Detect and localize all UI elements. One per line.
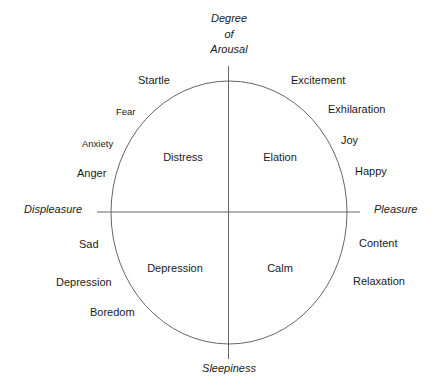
emotion-label-anger: Anger bbox=[77, 167, 106, 180]
axis-label-displeasure: Displeasure bbox=[24, 203, 82, 216]
circumplex-ellipse bbox=[111, 81, 347, 344]
axis-label-pleasure: Pleasure bbox=[374, 203, 417, 216]
quadrant-label-elation: Elation bbox=[263, 151, 297, 164]
axis-label-sleepiness: Sleepiness bbox=[202, 362, 256, 375]
emotion-label-content: Content bbox=[359, 237, 398, 250]
emotion-label-anxiety: Anxiety bbox=[82, 137, 113, 150]
emotion-label-sad: Sad bbox=[79, 238, 99, 251]
emotion-label-boredom: Boredom bbox=[90, 306, 135, 319]
circumplex-graphic bbox=[0, 0, 440, 392]
emotion-label-fear: Fear bbox=[116, 105, 136, 118]
quadrant-label-distress: Distress bbox=[163, 151, 203, 164]
emotion-label-startle: Startle bbox=[138, 74, 170, 87]
quadrant-label-depression: Depression bbox=[147, 262, 203, 275]
axis-label-arousal-line2: of bbox=[210, 27, 247, 43]
axis-label-arousal-line1: Degree bbox=[210, 11, 247, 27]
emotion-label-exhilaration: Exhilaration bbox=[328, 103, 385, 116]
axis-label-arousal: Degree of Arousal bbox=[210, 11, 247, 58]
emotion-label-depression: Depression bbox=[56, 276, 112, 289]
emotion-label-joy: Joy bbox=[341, 134, 358, 147]
axis-label-arousal-line3: Arousal bbox=[210, 42, 247, 58]
emotion-label-happy: Happy bbox=[355, 165, 387, 178]
quadrant-label-calm: Calm bbox=[267, 262, 293, 275]
emotion-label-relaxation: Relaxation bbox=[353, 275, 405, 288]
emotion-label-excitement: Excitement bbox=[291, 74, 345, 87]
